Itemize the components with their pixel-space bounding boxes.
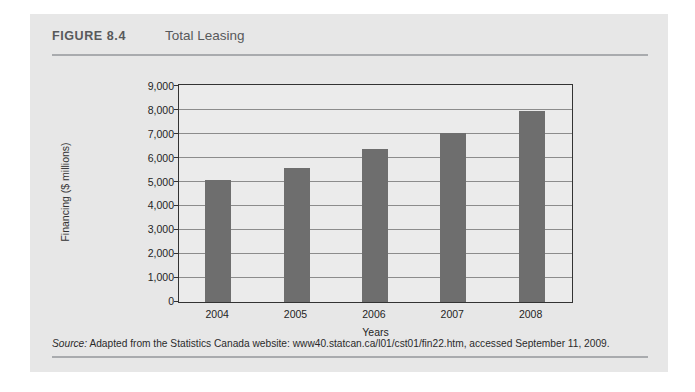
x-axis-tick-label: 2007 [422,308,482,320]
source-note: Source: Adapted from the Statistics Cana… [52,338,652,349]
plot-area [178,84,573,303]
y-axis-tick-label: 3,000 [126,223,174,235]
figure-title: Total Leasing [165,28,245,43]
x-axis-tick-label: 2004 [187,308,247,320]
y-axis-tick-label: 5,000 [126,176,174,188]
chart-container: Financing ($ millions) 01,0002,0003,0004… [30,60,668,330]
x-axis-tick-label: 2008 [501,308,561,320]
x-axis-tick-label: 2005 [266,308,326,320]
y-axis-tick-label: 7,000 [126,128,174,140]
x-axis-tick-label: 2006 [344,308,404,320]
footer-divider [52,356,648,358]
gridline [179,109,572,110]
bar [362,149,388,302]
figure-card: FIGURE 8.4 Total Leasing Financing ($ mi… [30,14,668,372]
bar [205,180,231,302]
bar [440,133,466,302]
y-axis-tick-label: 1,000 [126,271,174,283]
y-axis-tick-labels: 01,0002,0003,0004,0005,0006,0007,0008,00… [122,84,174,303]
y-axis-tick-label: 0 [126,295,174,307]
source-text: Adapted from the Statistics Canada websi… [87,338,610,349]
y-axis-title: Financing ($ millions) [59,102,71,282]
y-axis-tick-label: 6,000 [126,152,174,164]
y-axis-tick-label: 9,000 [126,80,174,92]
bar [284,168,310,302]
figure-number: FIGURE 8.4 [52,28,126,43]
plot-inner [179,85,572,302]
source-label: Source: [52,338,87,349]
gridline [179,133,572,134]
y-axis-tick-label: 2,000 [126,247,174,259]
x-axis-tick-labels: 20042005200620072008 [178,308,573,324]
header-divider [52,54,648,56]
x-axis-title: Years [178,326,573,338]
y-axis-tick-label: 8,000 [126,104,174,116]
y-axis-tick-label: 4,000 [126,199,174,211]
bar [519,111,545,302]
